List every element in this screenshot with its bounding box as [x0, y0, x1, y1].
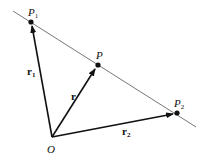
point-P2-dot — [174, 110, 179, 115]
vector-r-label: r — [71, 90, 76, 102]
origin-label: O — [47, 143, 55, 155]
point-P2-label: P2 — [173, 97, 185, 111]
point-P1-label: P1 — [27, 6, 39, 20]
vector-r2-label-sub: 2 — [127, 131, 131, 139]
vector-r2-arrow — [52, 114, 173, 137]
point-P-dot — [95, 62, 100, 67]
point-P-label: P — [95, 49, 103, 61]
point-P1-label-sub: 1 — [35, 12, 39, 20]
vector-diagram: P1 P P2 O r1 r r2 — [0, 0, 210, 155]
point-P1-dot — [28, 19, 33, 24]
vector-r2-label: r2 — [122, 125, 131, 139]
vector-r-arrow — [52, 69, 95, 137]
point-P2-label-sub: 2 — [181, 103, 185, 111]
vector-r1-label-sub: 1 — [32, 71, 36, 79]
vector-r1-label: r1 — [27, 65, 36, 79]
vector-r1-arrow — [32, 26, 52, 137]
